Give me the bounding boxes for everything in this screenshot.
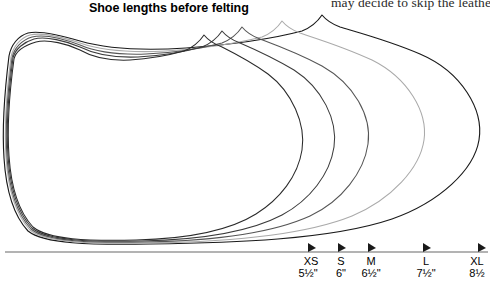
measure-label-m: 6½" bbox=[361, 267, 380, 279]
axis-tick-l bbox=[423, 243, 431, 252]
measure-label-xs: 5½" bbox=[298, 267, 317, 279]
measure-label-l: 7½" bbox=[416, 267, 435, 279]
size-label-xs: XS bbox=[304, 255, 319, 267]
axis-tick-m bbox=[368, 243, 376, 252]
axis-tick-xl bbox=[478, 243, 486, 252]
size-label-m: M bbox=[366, 255, 375, 267]
diagram-page: may decide to skip the leathe Shoe lengt… bbox=[0, 0, 490, 281]
measure-label-s: 6" bbox=[336, 267, 346, 279]
axis-tick-s bbox=[338, 243, 346, 252]
size-label-xl: XL bbox=[470, 255, 483, 267]
size-label-s: S bbox=[337, 255, 344, 267]
measure-label-xl: 8½ bbox=[469, 267, 484, 279]
measurement-axis-group bbox=[0, 0, 490, 281]
axis-tick-xs bbox=[308, 243, 316, 252]
size-label-l: L bbox=[423, 255, 429, 267]
